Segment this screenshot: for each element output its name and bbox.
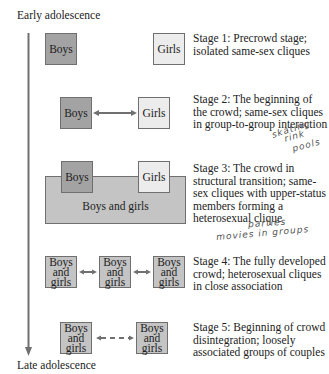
stage3-girls-box: Girls (138, 161, 170, 193)
stage4-double-arrow-1-icon (79, 270, 97, 275)
stage1-boys-box: Boys (45, 33, 77, 65)
stage4-mixed-box-1: Boys and girls (45, 256, 77, 288)
stage2-boys-box: Boys (60, 97, 92, 129)
stage5-mixed-box-1: Boys and girls (60, 322, 92, 354)
stage1-girls-box: Girls (153, 33, 185, 65)
stage4-mixed-box-2: Boys and girls (99, 256, 131, 288)
timeline-arrow-icon (25, 33, 32, 356)
stage5-mixed-box-2: Boys and girls (136, 322, 168, 354)
stage3-description: Stage 3: The crowd in structural transit… (193, 162, 329, 225)
stage2-girls-box: Girls (138, 97, 170, 129)
stage2-double-arrow-icon (93, 110, 137, 116)
stage4-description: Stage 4: The fully developed crowd; hete… (193, 255, 329, 293)
stage4-double-arrow-2-icon (133, 270, 151, 275)
stage3-boys-box: Boys (61, 161, 93, 193)
stage4-mixed-box-3: Boys and girls (153, 256, 185, 288)
stage1-description: Stage 1: Precrowd stage; isolated same-s… (193, 32, 329, 57)
stage5-description: Stage 5: Beginning of crowd disintegrati… (193, 321, 329, 359)
stage5-dashed-arrow-icon (96, 336, 134, 341)
